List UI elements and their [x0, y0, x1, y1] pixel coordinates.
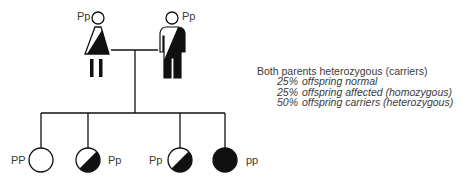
offspring-1-genotype: PP	[11, 155, 26, 166]
offspring-4-genotype: pp	[246, 155, 258, 166]
father-genotype-label: Pp	[182, 11, 195, 22]
offspring-normal-icon	[29, 148, 53, 172]
offspring-carrier-icon	[76, 148, 100, 172]
inheritance-legend: Both parents heterozygous (carriers) 25%…	[257, 66, 453, 107]
offspring-2-genotype: Pp	[108, 155, 121, 166]
mother-leg-left	[90, 59, 94, 77]
offspring-3-genotype: Pp	[149, 155, 162, 166]
legend-row-carriers: 50%offspring carriers (heterozygous)	[257, 97, 453, 107]
legend-pct: 50%	[277, 96, 298, 108]
mother-head-icon	[92, 12, 104, 24]
offspring-carrier-icon	[168, 148, 192, 172]
mother-genotype-label: Pp	[77, 11, 90, 22]
offspring-affected-icon	[213, 148, 237, 172]
legend-desc: offspring carriers (heterozygous)	[302, 96, 453, 108]
mother-leg-right	[99, 59, 103, 77]
father-head-icon	[166, 12, 178, 24]
